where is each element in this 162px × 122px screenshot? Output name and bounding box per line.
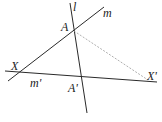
reflection-diagram: l m A X m' A' X' [0,0,162,122]
label-a-prime: A' [67,81,78,95]
line-m [8,7,104,81]
label-x-prime: X' [146,69,157,83]
line-l [70,3,87,113]
label-a: A [60,20,69,34]
label-m-prime: m' [30,76,42,90]
label-x: X [10,59,19,73]
dashed-segment-a-x-prime [74,31,148,80]
label-l: l [73,0,77,14]
label-m: m [103,6,112,20]
